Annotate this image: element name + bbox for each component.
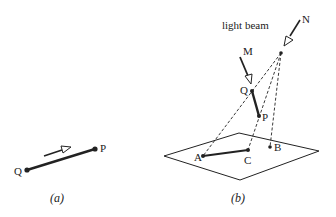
figure-a: Q P (a) [14, 142, 106, 205]
label-c: C [244, 154, 251, 166]
point-p [257, 114, 261, 118]
segment-qp [27, 149, 95, 170]
label-q: Q [240, 84, 248, 96]
point-n [279, 51, 283, 55]
arrow-n-icon [284, 20, 300, 46]
caption-a: (a) [50, 191, 64, 205]
figure-b: light beam N M Q P A C B (b) [164, 13, 319, 205]
label-p: P [262, 111, 268, 123]
label-b: B [274, 141, 281, 153]
label-n: N [302, 13, 310, 25]
point-b [268, 145, 272, 149]
point-q [250, 89, 254, 93]
label-q: Q [14, 165, 22, 177]
arrow-m-icon [240, 57, 252, 84]
diagram-canvas: Q P (a) light beam N M Q P A [0, 0, 336, 217]
label-m: M [243, 45, 253, 57]
label-p: P [100, 142, 106, 154]
caption-b: (b) [231, 191, 245, 205]
label-a: A [194, 151, 202, 163]
plane [164, 133, 319, 180]
point-p [92, 146, 97, 151]
light-beam-label: light beam [222, 19, 269, 31]
shadow-segment-ac [203, 150, 248, 156]
segment-qp [252, 91, 259, 116]
point-c [246, 148, 250, 152]
direction-arrow-icon [44, 146, 71, 156]
point-q [24, 167, 29, 172]
